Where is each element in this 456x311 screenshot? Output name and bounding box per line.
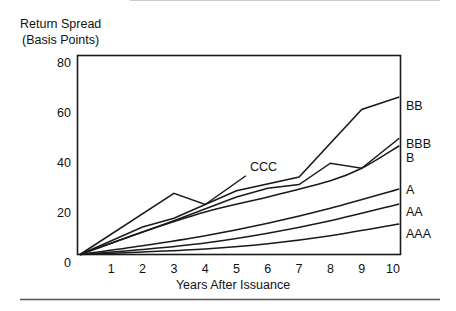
- y-tick-label: 80: [57, 56, 71, 70]
- series-label-bbb: BBB: [406, 137, 431, 151]
- series-labels: BBBBBBAAAAAACCC: [250, 99, 432, 241]
- x-tick-label: 9: [358, 262, 365, 276]
- series-line-bb: [80, 97, 399, 255]
- series-lines: [80, 97, 399, 255]
- y-tick-label: 20: [57, 206, 71, 220]
- x-axis-ticks: 12345678910: [108, 262, 400, 276]
- series-label-a: A: [406, 183, 415, 197]
- y-tick-label: 0: [64, 256, 71, 270]
- series-label-bb: BB: [406, 99, 423, 113]
- x-tick-label: 8: [327, 262, 334, 276]
- x-tick-label: 10: [386, 262, 400, 276]
- y-tick-label: 40: [57, 156, 71, 170]
- x-tick-label: 7: [296, 262, 303, 276]
- x-tick-label: 6: [264, 262, 271, 276]
- x-tick-label: 4: [202, 262, 209, 276]
- series-label-b: B: [406, 151, 414, 165]
- x-axis-title: Years After Issuance: [176, 278, 290, 292]
- y-axis-ticks: 020406080: [57, 56, 71, 270]
- y-tick-label: 60: [57, 106, 71, 120]
- x-tick-label: 2: [139, 262, 146, 276]
- line-chart: 020406080 12345678910 BBBBBBAAAAAACCC Ye…: [0, 0, 456, 311]
- x-tick-label: 3: [170, 262, 177, 276]
- x-tick-label: 5: [233, 262, 240, 276]
- series-label-aaa: AAA: [406, 227, 432, 241]
- x-tick-label: 1: [108, 262, 115, 276]
- series-label-aa: AA: [406, 205, 423, 219]
- series-label-ccc: CCC: [250, 160, 277, 174]
- series-line-a: [80, 189, 399, 255]
